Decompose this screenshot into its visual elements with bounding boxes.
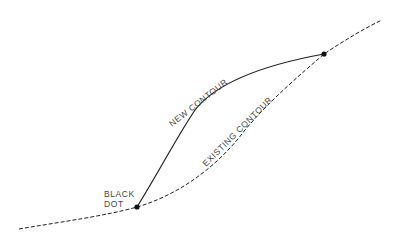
black-dot-upper [321,51,326,56]
new-contour-label: NEW CONTOUR [167,77,230,129]
black-dot-label-line1: BLACK [104,189,135,199]
black-dot-lower [134,204,139,209]
black-dot-label-line2: DOT [104,199,124,209]
contour-diagram: NEW CONTOUR EXISTING CONTOUR BLACK DOT [0,0,394,245]
existing-contour-line [19,20,382,229]
existing-contour-label: EXISTING CONTOUR [200,95,274,169]
